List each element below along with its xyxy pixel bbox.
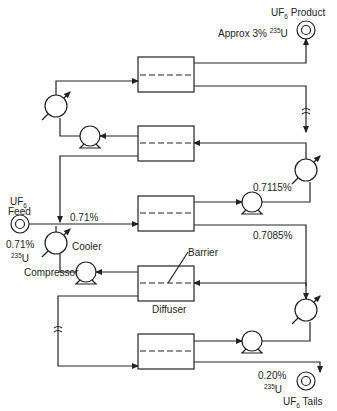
product-assay-label: Approx 3% 235U xyxy=(218,25,288,39)
stream-07115-label: 0.7115% xyxy=(253,182,292,193)
diffuser-2 xyxy=(138,126,194,161)
cooler-1 xyxy=(42,92,70,120)
tails-outlet-icon xyxy=(297,372,315,390)
stream-07085-label: 0.7085% xyxy=(253,230,292,241)
tails-label: UF6 Tails xyxy=(283,396,323,411)
product-outlet-icon xyxy=(297,21,315,39)
cooler-4 xyxy=(292,296,320,324)
tails-assay: 0.20% xyxy=(258,370,286,381)
diffuser-3 xyxy=(138,196,194,231)
tails-isotope: 235U xyxy=(264,381,282,395)
barrier-label: Barrier xyxy=(188,247,218,258)
compressor-2 xyxy=(241,192,263,214)
feed-inlet-icon xyxy=(11,215,29,233)
feed-assay: 0.71% xyxy=(6,239,34,250)
cooler-label: Cooler xyxy=(72,241,101,252)
compressor-label: Compressor xyxy=(24,267,78,278)
diffuser-4 xyxy=(138,266,194,301)
cooler-2 xyxy=(292,156,320,184)
cascade-diagram xyxy=(0,0,337,411)
product-label: UF6 Product xyxy=(271,7,325,22)
compressor-1 xyxy=(79,126,101,148)
diffuser-1 xyxy=(138,57,194,92)
diffuser-label: Diffuser xyxy=(152,304,186,315)
stream-071-label: 0.71% xyxy=(70,212,98,223)
feed-isotope: 235U xyxy=(11,250,29,264)
diffuser-5 xyxy=(138,334,194,369)
feed-word: Feed xyxy=(8,206,31,217)
cooler-3 xyxy=(42,229,70,257)
compressor-4 xyxy=(241,331,263,353)
